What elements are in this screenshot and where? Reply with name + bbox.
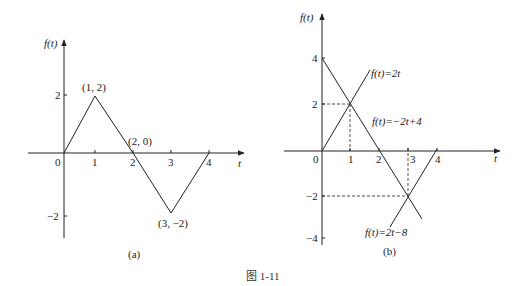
point-label: (2, 0)	[128, 135, 152, 148]
panel-caption: (b)	[383, 245, 396, 258]
y-tick-label: 2	[55, 89, 61, 101]
y-axis-label: f(t)	[44, 37, 58, 50]
x-tick-label: 3	[410, 153, 416, 165]
x-tick-label: 1	[92, 156, 98, 168]
y-tick-label: −4	[306, 232, 318, 244]
point-label: (3, −2)	[158, 217, 188, 230]
line-neg2t-plus4	[322, 58, 422, 219]
x-tick-label: 3	[168, 156, 174, 168]
y-tick-label: 4	[312, 52, 318, 64]
x-tick-label: 1	[348, 153, 354, 165]
line-label-2t: f(t)=2t	[371, 67, 401, 80]
x-tick-label: 2	[376, 153, 382, 165]
waveform	[64, 96, 209, 213]
figure-caption: 图 1-11	[246, 270, 280, 282]
panel-caption: (a)	[128, 248, 141, 261]
figure-1-11: f(t) t 0 1 2 3 4 2 −2 (1, 2) (2, 0) (3, …	[0, 0, 523, 286]
y-tick-label: 2	[312, 98, 318, 110]
line-label-neg2t-plus4: f(t)=−2t+4	[372, 115, 422, 128]
y-tick-label: −2	[306, 190, 318, 202]
y-tick-label: −2	[47, 210, 59, 222]
point-label: (1, 2)	[82, 81, 106, 94]
x-axis-label: t	[494, 152, 498, 164]
panel-b: f(t) t 0 1 2 3 4 4 2 −2 −4 f(t)=2t f(t)=…	[284, 11, 500, 258]
y-axis-label: f(t)	[300, 11, 314, 24]
origin-label: 0	[55, 156, 61, 168]
x-tick-label: 4	[435, 153, 441, 165]
line-label-2t-minus8: f(t)=2t−8	[365, 226, 408, 239]
x-tick-label: 2	[130, 156, 136, 168]
panel-a: f(t) t 0 1 2 3 4 2 −2 (1, 2) (2, 0) (3, …	[28, 37, 244, 261]
x-axis-label: t	[238, 157, 242, 169]
line-2t	[322, 70, 370, 151]
x-tick-label: 4	[206, 156, 212, 168]
origin-label: 0	[313, 153, 319, 165]
